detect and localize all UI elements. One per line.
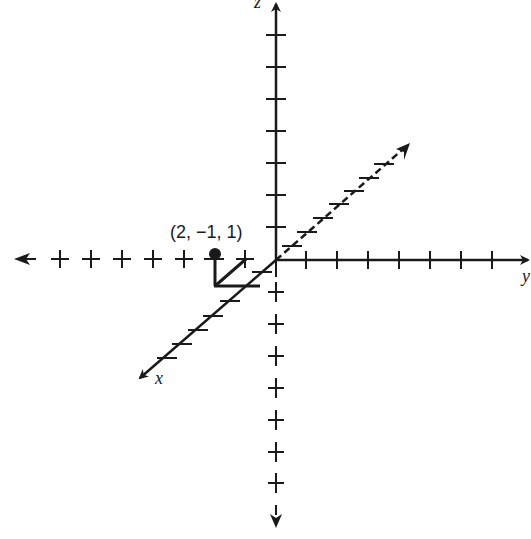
- coordinate-diagram: z y: [0, 0, 531, 539]
- x-axis: x: [140, 260, 276, 388]
- y-axis-label: y: [520, 266, 530, 286]
- x-axis-negative: [276, 143, 410, 260]
- point-label: (2, −1, 1): [170, 222, 243, 242]
- x-axis-label: x: [154, 368, 163, 388]
- y-axis: y: [276, 251, 530, 286]
- z-axis-label: z: [253, 0, 261, 12]
- point-marker: [209, 248, 221, 260]
- x-projection-line: [215, 259, 246, 286]
- z-axis: z: [253, 0, 286, 260]
- z-axis-negative: [268, 259, 284, 528]
